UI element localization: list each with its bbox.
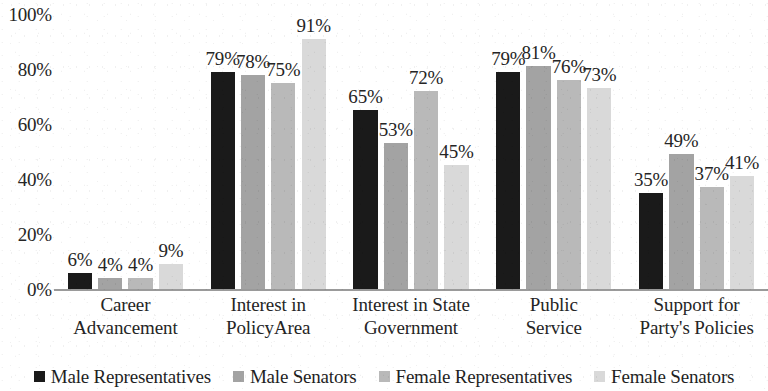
bar-value-label: 53% [379,120,413,139]
bar-slot: 79% [211,14,235,289]
bar-slot: 41% [730,14,754,289]
category-label-line: Interest in [197,293,340,316]
category-label-line: Party's Policies [625,316,768,339]
bar [414,91,438,289]
bar [444,165,468,289]
x-axis-category-label: Interest inPolicyArea [197,293,340,339]
bar-group: 79%81%76%73% [482,14,625,289]
bar-slot: 78% [241,14,265,289]
bar-value-label: 45% [439,142,473,161]
bar [159,264,183,289]
bar [241,75,265,290]
bar-value-label: 9% [158,241,183,260]
y-axis-tick-40: 40% [0,170,52,189]
bar-group: 65%53%72%45% [340,14,483,289]
legend-swatch-icon [594,371,605,382]
bar-value-label: 81% [521,43,555,62]
bar-slot: 37% [700,14,724,289]
bar-value-label: 75% [266,60,300,79]
legend-label: Female Representatives [396,366,573,387]
y-axis-tick-100: 100% [0,5,52,24]
axis-baseline [54,289,768,291]
x-axis-category-label: CareerAdvancement [54,293,197,339]
x-axis-category-label: Support forParty's Policies [625,293,768,339]
legend-label: Female Senators [611,366,734,387]
x-axis-category-labels: CareerAdvancementInterest inPolicyAreaIn… [54,293,768,349]
category-label-line: Interest in State [340,293,483,316]
bar-slot: 72% [414,14,438,289]
category-label-line: Advancement [54,316,197,339]
bar-slot: 35% [639,14,663,289]
grouped-bar-chart: 0%20%40%60%80%100% 6%4%4%9%79%78%75%91%6… [0,0,768,391]
bar [271,83,295,289]
bar-slot: 4% [128,14,152,289]
bar [68,273,92,290]
category-label-line: Public [482,293,625,316]
bar [639,193,663,289]
bar [557,80,581,289]
bar [496,72,520,289]
bar-value-label: 72% [409,68,443,87]
bar [526,66,550,289]
bar-slot: 81% [526,14,550,289]
bar [98,278,122,289]
bar-slot: 65% [353,14,377,289]
bar-slot: 91% [302,14,326,289]
bar-slot: 75% [271,14,295,289]
y-axis-tick-80: 80% [0,60,52,79]
legend-item[interactable]: Male Senators [233,366,357,387]
category-label-line: Service [482,316,625,339]
legend-item[interactable]: Female Senators [594,366,734,387]
bar-value-label: 4% [98,255,123,274]
legend-label: Male Representatives [51,366,211,387]
plot-area: 6%4%4%9%79%78%75%91%65%53%72%45%79%81%76… [54,14,768,289]
bar-value-label: 6% [67,250,92,269]
bar-slot: 49% [669,14,693,289]
bar [302,39,326,289]
bar [730,176,754,289]
bar-value-label: 91% [297,16,331,35]
bar-group: 79%78%75%91% [197,14,340,289]
bar-slot: 53% [384,14,408,289]
bar-slot: 9% [159,14,183,289]
bar-slot: 45% [444,14,468,289]
legend-swatch-icon [34,371,45,382]
bar-slot: 79% [496,14,520,289]
bar-group: 35%49%37%41% [625,14,768,289]
legend-label: Male Senators [250,366,357,387]
bar-group: 6%4%4%9% [54,14,197,289]
bar-value-label: 41% [725,153,759,172]
legend-item[interactable]: Male Representatives [34,366,211,387]
chart-legend: Male RepresentativesMale SenatorsFemale … [0,362,768,390]
bar [384,143,408,289]
x-axis-category-label: Interest in StateGovernment [340,293,483,339]
bar-value-label: 79% [206,49,240,68]
legend-swatch-icon [379,371,390,382]
bar-value-label: 65% [348,87,382,106]
y-axis: 0%20%40%60%80%100% [0,0,52,295]
category-label-line: Government [340,316,483,339]
bar [669,154,693,289]
y-axis-tick-0: 0% [0,280,52,299]
x-axis-category-label: PublicService [482,293,625,339]
bar-value-label: 73% [582,65,616,84]
bar-slot: 76% [557,14,581,289]
category-label-line: PolicyArea [197,316,340,339]
category-label-line: Career [54,293,197,316]
legend-item[interactable]: Female Representatives [379,366,573,387]
bar-value-label: 49% [664,131,698,150]
bar [353,110,377,289]
bar [700,187,724,289]
category-label-line: Support for [625,293,768,316]
bar-value-label: 78% [236,52,270,71]
bar [128,278,152,289]
bar-value-label: 35% [634,170,668,189]
bar-slot: 4% [98,14,122,289]
y-axis-tick-20: 20% [0,225,52,244]
bar-value-label: 76% [552,57,586,76]
bar [211,72,235,289]
bar-value-label: 79% [491,49,525,68]
bar-slot: 73% [587,14,611,289]
bar-slot: 6% [68,14,92,289]
bar [587,88,611,289]
